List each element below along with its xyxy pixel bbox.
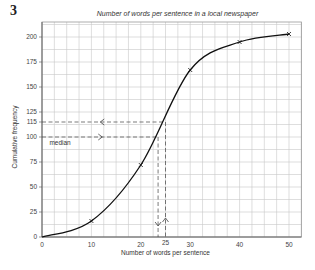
x-tick-label: 20 xyxy=(137,241,145,248)
y-tick-label: 150 xyxy=(26,83,37,90)
x-tick-label: 50 xyxy=(285,241,293,248)
x-tick-label: 25 xyxy=(162,239,170,246)
plot-frame xyxy=(42,22,301,237)
y-tick-label: 200 xyxy=(26,33,37,40)
median-label: median xyxy=(49,139,71,146)
y-tick-label: 0 xyxy=(33,233,37,240)
x-tick-label: 40 xyxy=(236,241,244,248)
x-tick-label: 0 xyxy=(40,241,44,248)
y-tick-label: 50 xyxy=(30,183,38,190)
y-tick-label: 175 xyxy=(26,58,37,65)
y-tick-label: 125 xyxy=(26,108,37,115)
x-tick-label: 10 xyxy=(88,241,96,248)
y-axis-label: Cumulative frequency xyxy=(11,105,19,169)
y-tick-label: 100 xyxy=(26,133,37,140)
y-tick-label: 75 xyxy=(30,158,38,165)
y-tick-label: 25 xyxy=(30,208,38,215)
cumulative-frequency-chart: 01020253040500255075100115125150175200Nu… xyxy=(0,0,315,270)
y-tick-label: 115 xyxy=(27,118,38,125)
x-axis-label: Number of words per sentence xyxy=(121,249,210,257)
x-tick-label: 30 xyxy=(187,241,195,248)
